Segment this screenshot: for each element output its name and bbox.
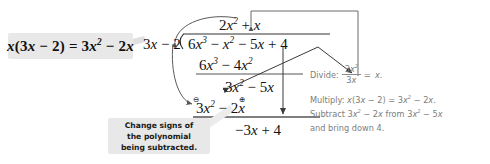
explanation-subtract-line-2: and bring down 4.	[310, 121, 486, 135]
explanation-block: Divide: 3x2 3x = x. Multiply: x(3x − 2) …	[310, 64, 486, 135]
divide-equals: =	[364, 68, 371, 82]
divide-label: Divide:	[310, 68, 339, 82]
divide-fraction: 3x2 3x	[342, 65, 361, 85]
explanation-divide-line: Divide: 3x2 3x = x.	[310, 64, 486, 86]
arrow-divisor-to-product	[172, 44, 192, 104]
callout-multiply-text: x(3x − 2) = 3x2 − 2x	[7, 38, 134, 55]
callout-change-signs-line1: Change signs of	[125, 120, 193, 131]
callout-multiply: x(3x − 2) = 3x2 − 2x	[8, 33, 133, 59]
dividend: 6x3 − x2 − 5x + 4	[188, 36, 288, 53]
divide-fraction-denominator: 3x	[342, 74, 361, 85]
explanation-spacer	[310, 86, 486, 93]
divide-fraction-numerator: 3x2	[342, 65, 361, 74]
explanation-multiply-line: Multiply: x(3x − 2) = 3x2 − 2x.	[310, 93, 486, 107]
partial-product-1: 6x3 − 4x2	[199, 57, 253, 74]
explanation-subtract-line-1: Subtract 3x2 − 2x from 3x2 − 5x	[310, 107, 486, 121]
remainder-2: −3x + 4	[235, 122, 281, 139]
circled-plus-icon: ⊕	[239, 95, 245, 104]
quotient: 2x2 + x	[219, 17, 260, 34]
partial-product-2: 3x2 − 2x	[196, 100, 245, 117]
divide-result: x.	[375, 68, 382, 82]
callout-change-signs-line3: being subtracted.	[121, 142, 197, 153]
callout-change-signs: Change signs of the polynomial being sub…	[108, 118, 210, 154]
callout-change-signs-line2: the polynomial	[127, 131, 191, 142]
diagram-canvas: x(3x − 2) = 3x2 − 2x Change signs of the…	[0, 0, 490, 164]
divisor: 3x − 2	[143, 36, 181, 53]
circled-minus-icon: ⊖	[193, 95, 199, 104]
remainder-1: 3x2 − 5x	[225, 79, 274, 96]
